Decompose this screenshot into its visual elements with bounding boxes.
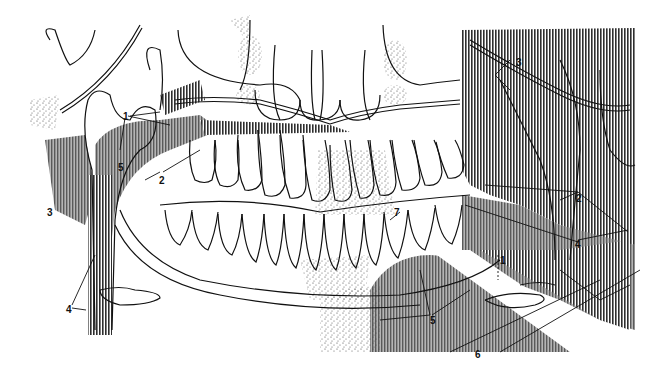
label-7: 7 <box>394 208 400 218</box>
dental-panoramic-diagram: 1 2 3 4 5 7 3 2 4 1 5 6 <box>0 0 646 372</box>
left-hatched-region <box>45 80 350 335</box>
label-3-left: 3 <box>47 208 53 218</box>
label-1-right: 1 <box>500 256 506 266</box>
label-4-right: 4 <box>575 240 581 250</box>
label-4-left: 4 <box>66 305 72 315</box>
label-3-right: 3 <box>516 58 522 68</box>
label-5-left: 5 <box>118 163 124 173</box>
label-6: 6 <box>475 350 481 360</box>
label-2-left: 2 <box>159 176 165 186</box>
diagram-drawing <box>0 0 646 372</box>
label-2-right: 2 <box>576 194 582 204</box>
label-1-left: 1 <box>123 112 129 122</box>
label-5-right: 5 <box>430 316 436 326</box>
